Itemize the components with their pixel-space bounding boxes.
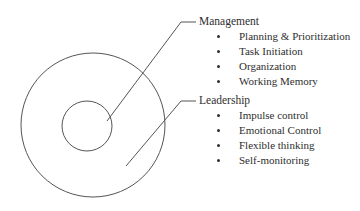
- diagram-canvas: Management Planning & Prioritization Tas…: [0, 0, 360, 211]
- label-groups: Management Planning & Prioritization Tas…: [0, 0, 360, 211]
- list-item: Organization: [199, 59, 350, 74]
- bullet-dot-icon: [217, 80, 220, 83]
- bullet-dot-icon: [217, 50, 220, 53]
- group-leadership: Leadership Impulse control Emotional Con…: [199, 93, 321, 168]
- list-item: Working Memory: [199, 74, 350, 89]
- group-management-heading: Management: [199, 14, 350, 28]
- list-item: Impulse control: [199, 108, 321, 123]
- list-item-label: Working Memory: [239, 75, 318, 87]
- list-item-label: Organization: [239, 60, 296, 72]
- list-item-label: Self-monitoring: [239, 154, 309, 166]
- list-item: Task Initiation: [199, 44, 350, 59]
- list-item-label: Impulse control: [239, 109, 308, 121]
- bullet-dot-icon: [217, 129, 220, 132]
- list-item: Flexible thinking: [199, 138, 321, 153]
- group-leadership-heading: Leadership: [199, 93, 321, 107]
- group-management: Management Planning & Prioritization Tas…: [199, 14, 350, 89]
- list-item-label: Emotional Control: [239, 124, 321, 136]
- list-item: Emotional Control: [199, 123, 321, 138]
- bullet-dot-icon: [217, 144, 220, 147]
- list-item: Planning & Prioritization: [199, 29, 350, 44]
- bullet-dot-icon: [217, 159, 220, 162]
- list-item-label: Task Initiation: [239, 45, 303, 57]
- bullet-dot-icon: [217, 65, 220, 68]
- list-item-label: Planning & Prioritization: [239, 30, 350, 42]
- list-item-label: Flexible thinking: [239, 139, 314, 151]
- bullet-dot-icon: [217, 114, 220, 117]
- bullet-dot-icon: [217, 35, 220, 38]
- group-management-list: Planning & Prioritization Task Initiatio…: [199, 29, 350, 89]
- group-leadership-list: Impulse control Emotional Control Flexib…: [199, 108, 321, 168]
- list-item: Self-monitoring: [199, 153, 321, 168]
